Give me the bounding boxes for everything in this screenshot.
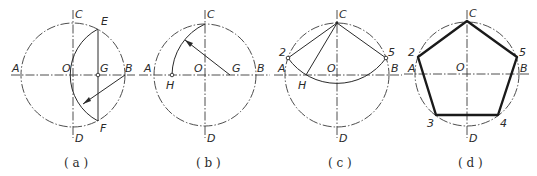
label-b: B [391, 62, 399, 75]
label-c: C [75, 8, 83, 21]
label-c: C [339, 8, 347, 21]
point-h [170, 73, 174, 77]
pentagon-construction-figure: A O G B C E F D ( a ) A O G B H C D ( b … [0, 0, 537, 176]
caption-a: ( a ) [64, 156, 88, 170]
label-h: H [298, 79, 306, 92]
label-2: 2 [279, 46, 286, 59]
line-c-2 [288, 23, 337, 58]
label-3: 3 [427, 117, 434, 130]
label-b: B [520, 62, 528, 75]
label-f: F [100, 122, 107, 135]
panel-c: 2 5 A O B H C D ( c ) [274, 8, 402, 170]
label-o: O [456, 61, 465, 74]
label-5: 5 [519, 46, 526, 59]
label-c: C [469, 7, 477, 20]
label-c: C [207, 8, 215, 21]
panel-b: A O G B H C D ( b ) [139, 8, 270, 170]
label-g: G [232, 62, 241, 75]
line-c-5 [337, 23, 386, 58]
radius-arrow-line [185, 40, 230, 75]
label-g: G [100, 62, 109, 75]
label-d: D [339, 132, 347, 145]
label-h: H [166, 79, 174, 92]
label-o: O [62, 62, 71, 75]
arrowhead-icon [83, 97, 91, 104]
label-a: A [277, 62, 286, 75]
label-o: O [327, 62, 336, 75]
panel-d: 2 5 3 4 A O B C D ( d ) [404, 7, 530, 170]
panel-a: A O G B C E F D ( a ) [11, 8, 135, 170]
label-2: 2 [408, 46, 415, 59]
caption-d: ( d ) [458, 156, 483, 170]
label-5: 5 [388, 46, 395, 59]
label-a: A [11, 62, 20, 75]
label-b: B [257, 62, 265, 75]
label-d: D [469, 132, 477, 145]
label-a: A [143, 62, 152, 75]
label-e: E [101, 15, 108, 28]
arrowhead-icon [185, 40, 193, 47]
label-b: B [125, 62, 133, 75]
label-d: D [75, 132, 83, 145]
label-d: D [207, 132, 215, 145]
point-c [335, 21, 338, 24]
label-a: A [407, 62, 416, 75]
caption-b: ( b ) [196, 156, 221, 170]
point-2 [286, 56, 290, 60]
caption-c: ( c ) [328, 156, 352, 170]
label-4: 4 [500, 117, 507, 130]
label-o: O [194, 62, 203, 75]
